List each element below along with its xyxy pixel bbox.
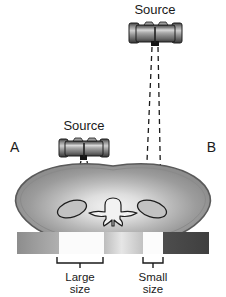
small-size-label-line2: size [143,283,163,295]
source-notch-left [144,22,154,25]
source-top-right [129,22,182,46]
small-size-label-line1: Small [139,271,168,283]
source-notch-right [158,22,168,25]
detector-segment-2 [59,232,104,254]
detector-segment-1 [17,232,59,254]
bracket-small-path [143,257,163,263]
panel-label-b: B [207,139,216,155]
large-size-label-line1: Large [65,271,94,283]
bracket-large-path [57,257,103,263]
detector-segment-4 [143,232,163,254]
bracket-small-size [143,257,163,268]
bracket-large-size [57,257,103,268]
panel-label-a: A [10,139,20,155]
source-left-label: Source [63,118,104,133]
source-left [59,138,109,160]
detector-segment-5 [163,232,209,254]
detector-segment-3 [104,232,143,254]
large-size-label-line2: size [70,283,90,295]
source-left-notch-right [87,138,97,141]
source-left-notch-left [73,138,83,141]
figure-container: A B Source Source [0,0,226,297]
detector-strip [17,232,209,254]
source-top-right-label: Source [134,2,175,17]
diagram-canvas: A B Source Source [0,0,226,297]
